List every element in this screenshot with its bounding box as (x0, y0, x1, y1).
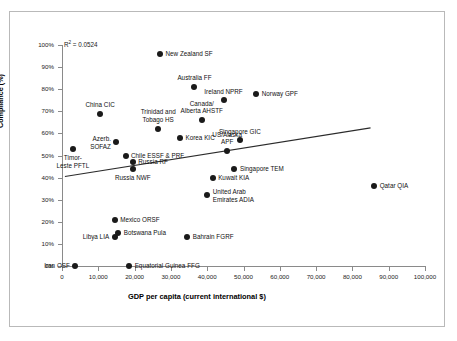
r-squared-annotation: R2 = 0.0524 (64, 40, 98, 48)
y-axis-tick-label: 70% (42, 108, 54, 114)
data-point-marker (253, 91, 259, 97)
y-axis-tick (58, 67, 62, 68)
data-point-marker (210, 175, 216, 181)
data-point-marker (191, 84, 197, 90)
y-axis-tick (58, 200, 62, 201)
x-axis-tick-label: 20,000 (125, 274, 144, 280)
x-axis-tick (425, 267, 426, 271)
data-point-marker (199, 117, 205, 123)
x-axis-tick-label: 70,000 (307, 274, 326, 280)
data-point-label: US/Alaska APF (212, 131, 242, 146)
x-axis-tick-label: 0 (60, 274, 63, 280)
x-axis-tick-label: 50,000 (234, 274, 253, 280)
y-axis-tick (58, 222, 62, 223)
scatter-plot-figure: Compliance (%) GDP per capita (current i… (0, 0, 457, 341)
data-point-label: Canada/ Alberta AHSTF (181, 100, 223, 115)
data-point-label: Singapore TEM (240, 165, 284, 172)
x-axis-tick-label: 40,000 (198, 274, 217, 280)
x-axis-tick (98, 267, 99, 271)
x-axis-tick-label: 10,000 (89, 274, 108, 280)
data-point-label: Russia NWF (115, 174, 151, 181)
x-axis-tick-label: 80,000 (343, 274, 362, 280)
data-point-label: China CIC (85, 101, 114, 108)
data-point-marker (157, 51, 163, 57)
y-axis-tick (58, 111, 62, 112)
y-axis-tick-label: 80% (42, 86, 54, 92)
data-point-marker (204, 192, 210, 198)
y-axis-title: Compliance (%) (0, 74, 5, 128)
data-point-marker (126, 263, 132, 269)
y-axis-tick (58, 45, 62, 46)
y-axis-tick-label: 90% (42, 64, 54, 70)
x-axis-tick (352, 267, 353, 271)
data-point-marker (184, 234, 190, 240)
y-axis-tick-label: 40% (42, 175, 54, 181)
x-axis-tick (389, 267, 390, 271)
data-point-marker (72, 263, 78, 269)
r-squared-value: = 0.0524 (71, 41, 97, 48)
data-point-marker (70, 146, 76, 152)
data-point-marker (97, 111, 103, 117)
data-point-label: Botswana Pula (124, 229, 166, 236)
data-point-marker (123, 153, 129, 159)
data-point-label: Libya LIA (83, 234, 109, 241)
data-point-label: Norway GPF (262, 90, 298, 97)
y-axis-tick (58, 178, 62, 179)
data-point-marker (130, 159, 136, 165)
y-axis-tick-label: 30% (42, 197, 54, 203)
y-axis-tick-label: 100% (38, 42, 54, 48)
data-point-label: Equatorial Guinea FFG (135, 262, 200, 269)
data-point-marker (155, 126, 161, 132)
data-point-marker (231, 166, 237, 172)
data-point-marker (112, 217, 118, 223)
x-axis-tick-label: 100,000 (414, 274, 436, 280)
y-axis-tick (58, 244, 62, 245)
x-axis-tick-label: 30,000 (161, 274, 180, 280)
data-point-label: Ireland NPRF (204, 87, 242, 94)
y-axis-tick-label: 60% (42, 130, 54, 136)
data-point-label: Iran OSF (44, 262, 70, 269)
data-point-marker (177, 135, 183, 141)
data-point-marker (112, 234, 118, 240)
y-axis-tick (58, 133, 62, 134)
data-point-label: Mexico ORSF (120, 216, 159, 223)
x-axis-tick (244, 267, 245, 271)
data-point-marker (130, 166, 136, 172)
data-point-label: Qatar QIA (380, 183, 409, 190)
y-axis-tick (58, 89, 62, 90)
data-point-marker (113, 139, 119, 145)
y-axis-tick-label: 20% (42, 219, 54, 225)
x-axis-tick (207, 267, 208, 271)
x-axis-tick (280, 267, 281, 271)
data-point-label: Russia RF (138, 158, 168, 165)
data-point-label: Korea KIC (185, 134, 214, 141)
y-axis-tick-label: 10% (42, 241, 54, 247)
data-point-label: Kuwait KIA (218, 174, 249, 181)
data-point-label: Azerb. SOFAZ (90, 135, 111, 150)
x-axis-title: GDP per capita (current international $) (128, 292, 266, 301)
data-point-label: Bahrain FGRF (193, 234, 234, 241)
data-point-marker (224, 148, 230, 154)
data-point-label: Australia FF (177, 74, 211, 81)
x-axis-tick-label: 90,000 (379, 274, 398, 280)
x-axis-tick (316, 267, 317, 271)
y-axis-tick-label: 50% (42, 153, 54, 159)
data-point-label: New Zealand SF (166, 50, 213, 57)
data-point-label: Trinidad and Tobago HS (141, 109, 176, 124)
x-axis-tick-label: 60,000 (270, 274, 289, 280)
data-point-label: Timor- Leste PFTL (57, 154, 90, 169)
data-point-label: United Arab Emirates ADIA (213, 188, 254, 203)
data-point-marker (371, 183, 377, 189)
